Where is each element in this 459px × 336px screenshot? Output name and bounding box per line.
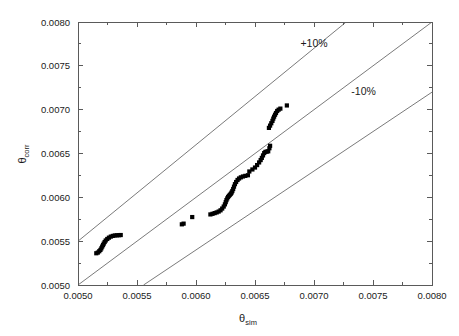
scatter-plot: 0.00500.00550.00600.00650.00700.00750.00… xyxy=(0,0,459,336)
minus-ten-percent-label: -10% xyxy=(351,85,376,97)
data-point xyxy=(278,107,282,111)
parity-line xyxy=(78,22,432,285)
y-tick-label: 0.0065 xyxy=(41,148,70,159)
data-point xyxy=(190,215,194,219)
data-point xyxy=(268,144,272,148)
svg-text:θsim: θsim xyxy=(239,312,257,327)
y-tick-label: 0.0070 xyxy=(41,104,70,115)
y-tick-label: 0.0080 xyxy=(41,17,70,28)
x-tick-label: 0.0080 xyxy=(417,290,446,301)
y-tick-label: 0.0060 xyxy=(41,192,70,203)
y-axis-title: θcorr xyxy=(16,144,31,164)
y-axis-title-subscript: corr xyxy=(22,144,31,157)
annotation-group: +10%-10% xyxy=(300,37,375,97)
data-point xyxy=(285,103,289,107)
plus-ten-percent-label: +10% xyxy=(300,37,327,49)
x-axis-title-subscript: sim xyxy=(245,318,257,327)
x-tick-label: 0.0060 xyxy=(181,290,210,301)
data-point xyxy=(119,233,123,237)
x-axis-title: θsim xyxy=(239,312,257,327)
x-tick-label: 0.0070 xyxy=(299,290,328,301)
minus-10-percent-line xyxy=(144,92,432,285)
data-point-group xyxy=(94,103,289,255)
y-tick-label: 0.0075 xyxy=(41,60,70,71)
x-axis-ticks: 0.00500.00550.00600.00650.00700.00750.00… xyxy=(63,22,446,301)
data-point xyxy=(182,222,186,226)
y-tick-label: 0.0055 xyxy=(41,236,70,247)
svg-text:θcorr: θcorr xyxy=(16,144,31,164)
y-tick-label: 0.0050 xyxy=(41,280,70,291)
figure-container: 0.00500.00550.00600.00650.00700.00750.00… xyxy=(0,0,459,336)
x-tick-label: 0.0050 xyxy=(63,290,92,301)
reference-lines-group xyxy=(78,22,432,285)
data-point xyxy=(246,173,250,177)
x-tick-label: 0.0065 xyxy=(240,290,269,301)
plus-10-percent-line xyxy=(78,22,346,241)
x-tick-label: 0.0055 xyxy=(122,290,151,301)
x-tick-label: 0.0075 xyxy=(358,290,387,301)
